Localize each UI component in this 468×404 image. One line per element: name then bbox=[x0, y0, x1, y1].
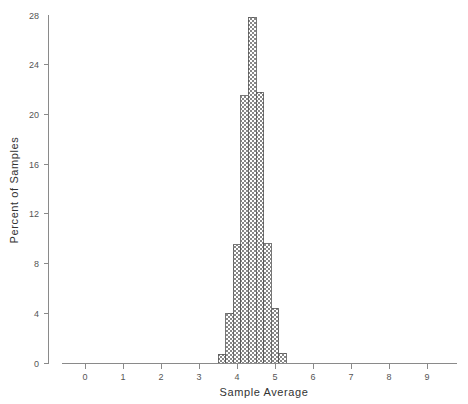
x-axis-tick-label: 3 bbox=[196, 372, 201, 382]
y-axis-tick-label: 28 bbox=[29, 11, 39, 21]
y-axis-tick-label: 20 bbox=[29, 110, 39, 120]
x-axis-tick-label: 2 bbox=[158, 372, 163, 382]
histogram-bar bbox=[226, 313, 234, 363]
x-axis-title: Sample Average bbox=[220, 386, 309, 398]
y-axis: 0481216202428 bbox=[29, 11, 49, 369]
x-axis-tick-label: 6 bbox=[310, 372, 315, 382]
histogram-bars bbox=[218, 17, 286, 363]
histogram-bar bbox=[256, 92, 264, 363]
x-axis-tick-label: 4 bbox=[234, 372, 239, 382]
x-axis-tick-label: 5 bbox=[272, 372, 277, 382]
x-axis-tick-label: 8 bbox=[386, 372, 391, 382]
chart-canvas: 0123456789 0481216202428 Sample Average … bbox=[0, 0, 468, 404]
histogram-bar bbox=[271, 308, 279, 363]
y-axis-tick-label: 4 bbox=[34, 309, 39, 319]
y-axis-tick-label: 24 bbox=[29, 60, 39, 70]
histogram-bar bbox=[264, 244, 272, 363]
histogram-bar bbox=[218, 354, 226, 363]
y-axis-title: Percent of Samples bbox=[8, 137, 20, 244]
histogram-bar bbox=[248, 17, 256, 363]
x-axis-tick-label: 1 bbox=[120, 372, 125, 382]
y-axis-tick-label: 16 bbox=[29, 160, 39, 170]
x-axis-tick-label: 7 bbox=[348, 372, 353, 382]
x-axis-tick-label: 9 bbox=[424, 372, 429, 382]
x-axis: 0123456789 bbox=[62, 364, 457, 383]
histogram-bar bbox=[279, 353, 287, 363]
histogram-bar bbox=[241, 96, 249, 363]
y-axis-tick-label: 8 bbox=[34, 259, 39, 269]
y-axis-tick-label: 0 bbox=[34, 359, 39, 369]
histogram-bar bbox=[233, 245, 241, 363]
histogram-figure: 0123456789 0481216202428 Sample Average … bbox=[0, 0, 468, 404]
y-axis-tick-label: 12 bbox=[29, 209, 39, 219]
x-axis-tick-label: 0 bbox=[82, 372, 87, 382]
